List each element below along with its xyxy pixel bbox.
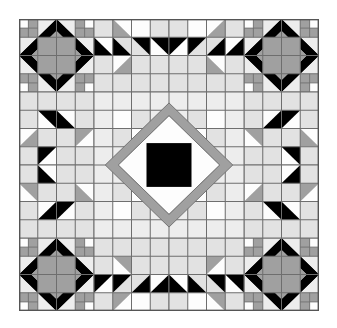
center-medallion: [94, 92, 244, 238]
edge-block-bottom-left-inner: [94, 238, 169, 311]
edge-block-left-upper: [19, 92, 94, 165]
corner-star-bottom-right: [244, 238, 319, 311]
edge-block-right-lower: [244, 165, 319, 238]
edge-block-right-upper: [244, 92, 319, 165]
edge-block-top-left-inner: [94, 19, 169, 92]
corner-star-top-right: [244, 19, 319, 92]
quilt-canvas: .L { fill:#ededed; } /* light background…: [19, 19, 319, 311]
corner-star-bottom-left: [19, 238, 94, 311]
edge-block-bottom-right-inner: [169, 238, 244, 311]
corner-star-top-left: [19, 19, 94, 92]
quilt-artwork: .L { fill:#ededed; } /* light background…: [19, 19, 319, 311]
edge-block-top-right-inner: [169, 19, 244, 92]
edge-block-left-lower: [19, 165, 94, 238]
